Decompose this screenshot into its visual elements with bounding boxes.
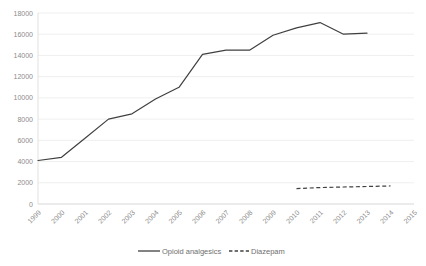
y-tick-label: 8000 — [17, 116, 33, 123]
chart-canvas: 0200040006000800010000120001400016000180… — [0, 0, 426, 266]
x-tick-label: 2003 — [120, 209, 136, 225]
x-tick-label: 2001 — [73, 209, 89, 225]
x-axis-tick-labels: 1999200020012002200320042005200620072008… — [26, 209, 418, 225]
x-tick-label: 1999 — [26, 209, 42, 225]
x-tick-label: 2009 — [261, 209, 277, 225]
x-tick-label: 2015 — [402, 209, 418, 225]
series-line-diazepam — [297, 186, 391, 189]
series-line-opioid-analgesics — [38, 23, 367, 161]
y-tick-label: 16000 — [14, 31, 34, 38]
y-tick-label: 10000 — [14, 94, 34, 101]
x-tick-label: 2006 — [191, 209, 207, 225]
legend-label-diazepam: Diazepam — [251, 247, 285, 256]
x-tick-label: 2008 — [238, 209, 254, 225]
y-tick-label: 12000 — [14, 73, 34, 80]
y-tick-label: 6000 — [17, 137, 33, 144]
x-tick-label: 2010 — [285, 209, 301, 225]
gridlines — [38, 13, 414, 204]
x-tick-label: 2004 — [144, 209, 160, 225]
y-axis-tick-labels: 0200040006000800010000120001400016000180… — [14, 10, 34, 208]
x-tick-label: 2000 — [50, 209, 66, 225]
x-tick-label: 2007 — [214, 209, 230, 225]
y-tick-label: 4000 — [17, 158, 33, 165]
x-tick-label: 2005 — [167, 209, 183, 225]
x-tick-label: 2011 — [309, 209, 325, 225]
y-tick-label: 18000 — [14, 10, 34, 17]
line-chart: 0200040006000800010000120001400016000180… — [0, 0, 426, 266]
x-tick-label: 2014 — [379, 209, 395, 225]
x-tick-label: 2002 — [97, 209, 113, 225]
y-tick-label: 2000 — [17, 179, 33, 186]
y-tick-label: 14000 — [14, 52, 34, 59]
legend-label-opioid-analgesics: Opioid analgesics — [162, 247, 221, 256]
x-tick-label: 2013 — [355, 209, 371, 225]
chart-legend: Opioid analgesics Diazepam — [138, 247, 285, 256]
x-tick-label: 2012 — [332, 209, 348, 225]
y-tick-label: 0 — [29, 201, 33, 208]
